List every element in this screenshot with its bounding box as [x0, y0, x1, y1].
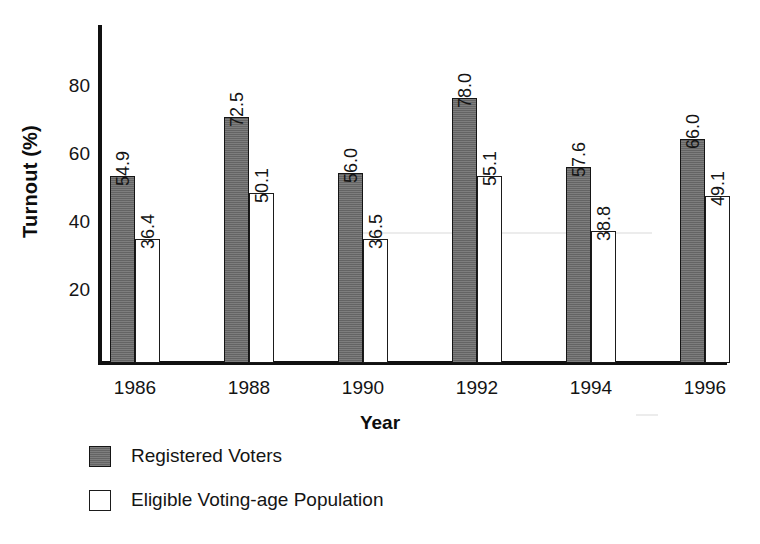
legend-swatch-registered-icon: [89, 446, 111, 467]
bar-1996-eligible: [705, 196, 730, 363]
legend-label: Eligible Voting-age Population: [131, 488, 383, 512]
y-tick-label: 20: [50, 280, 90, 299]
y-axis-line: [98, 25, 102, 365]
bar-1986-eligible: [135, 239, 160, 363]
x-tick-label-1994: 1994: [546, 378, 636, 398]
bar-value-label: 50.1: [253, 168, 271, 203]
y-axis-title: Turnout (%): [19, 117, 42, 247]
x-tick-label-1992: 1992: [432, 378, 522, 398]
bar-1992-registered: [452, 98, 477, 363]
bar-1986-registered: [110, 176, 135, 363]
legend-item-eligible: Eligible Voting-age Population: [89, 488, 609, 532]
bar-1988-eligible: [249, 193, 274, 363]
bar-1994-eligible: [591, 231, 616, 363]
y-tick-2: 60: [40, 144, 90, 163]
bar-value-label: 38.8: [595, 206, 613, 241]
bar-value-label: 36.4: [139, 214, 157, 249]
x-tick-label-1988: 1988: [204, 378, 294, 398]
bar-value-label: 54.9: [114, 151, 132, 186]
bar-1994-registered: [566, 167, 591, 363]
bar-value-label: 72.5: [228, 91, 246, 126]
y-tick-1: 40: [40, 212, 90, 231]
bar-value-label: 36.5: [367, 214, 385, 249]
x-tick-label-1990: 1990: [318, 378, 408, 398]
x-axis-line: [98, 361, 727, 365]
bar-value-label: 56.0: [342, 148, 360, 183]
bar-1990-registered: [338, 173, 363, 363]
chart-screenshot: Turnout (%) 20 40 60 80 54.936.4198672.5…: [0, 0, 760, 544]
chart-legend: Registered Voters Eligible Voting-age Po…: [89, 444, 609, 532]
bar-value-label: 78.0: [456, 73, 474, 108]
x-axis-title: Year: [0, 412, 760, 434]
legend-item-registered: Registered Voters: [89, 444, 609, 488]
y-tick-label: 40: [50, 212, 90, 231]
bar-1990-eligible: [363, 239, 388, 363]
bar-1996-registered: [680, 139, 705, 363]
x-tick-label-1996: 1996: [660, 378, 750, 398]
y-tick-0: 20: [40, 280, 90, 299]
y-tick-label: 80: [50, 76, 90, 95]
bar-value-label: 49.1: [709, 171, 727, 206]
y-tick-label: 60: [50, 144, 90, 163]
bar-value-label: 66.0: [684, 114, 702, 149]
legend-swatch-eligible-icon: [89, 490, 111, 511]
y-tick-3: 80: [40, 76, 90, 95]
x-tick-label-1986: 1986: [90, 378, 180, 398]
bar-1988-registered: [224, 117, 249, 364]
bar-value-label: 57.6: [570, 142, 588, 177]
bar-value-label: 55.1: [481, 151, 499, 186]
bar-1992-eligible: [477, 176, 502, 363]
legend-label: Registered Voters: [131, 444, 282, 468]
